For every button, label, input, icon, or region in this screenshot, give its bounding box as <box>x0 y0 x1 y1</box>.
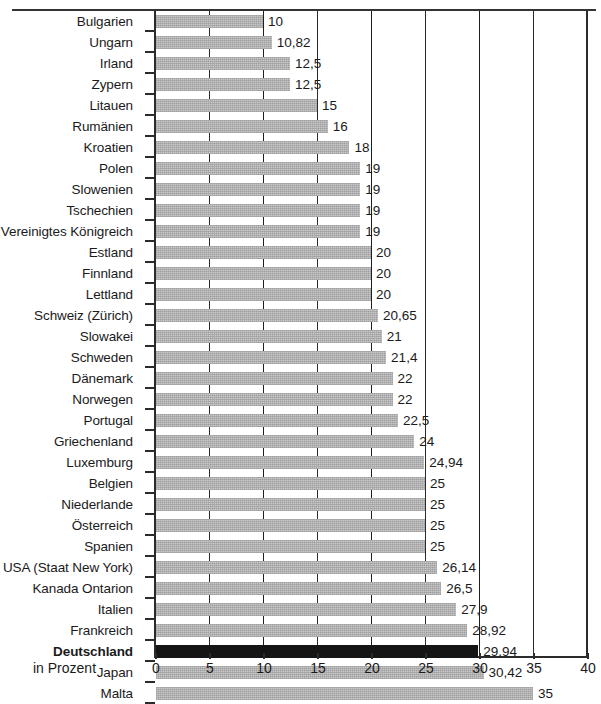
category-label: Estland <box>89 242 133 263</box>
bar <box>156 687 533 700</box>
category-label: Italien <box>98 599 133 620</box>
category-label: Rumänien <box>72 116 133 137</box>
bar <box>156 225 360 238</box>
bar-row: Kanada Ontarion26,5 <box>0 578 601 599</box>
bar-row: Rumänien16 <box>0 116 601 137</box>
x-axis-tick-mark <box>479 653 481 659</box>
bar-value-label: 15 <box>322 95 337 116</box>
bar-row: Frankreich28,92 <box>0 620 601 641</box>
bar-value-label: 20 <box>376 284 391 305</box>
bar-value-label: 10 <box>268 11 283 32</box>
bar <box>156 414 398 427</box>
bar <box>156 456 424 469</box>
bar <box>156 141 349 154</box>
bar-row: Litauen15 <box>0 95 601 116</box>
category-label: Schweden <box>71 347 133 368</box>
bar-row: Kroatien18 <box>0 137 601 158</box>
category-label: Frankreich <box>70 620 133 641</box>
bar <box>156 36 272 49</box>
bar <box>156 162 360 175</box>
bar-row: Slowakei21 <box>0 326 601 347</box>
bar <box>156 57 290 70</box>
bar-value-label: 12,5 <box>295 74 321 95</box>
bar-value-label: 26,14 <box>442 557 476 578</box>
bar <box>156 603 456 616</box>
bar-value-label: 20 <box>376 263 391 284</box>
category-label: Vereinigtes Königreich <box>1 221 133 242</box>
bar-row: Ungarn10,82 <box>0 32 601 53</box>
x-axis-tick-label: 20 <box>364 660 380 676</box>
bar-row: Bulgarien10 <box>0 11 601 32</box>
bar-row: Vereinigtes Königreich19 <box>0 221 601 242</box>
bar <box>156 561 437 574</box>
category-label: Griechenland <box>54 431 133 452</box>
x-axis-tick-mark <box>425 653 427 659</box>
bar-value-label: 19 <box>365 221 380 242</box>
x-axis-tick-label: 0 <box>152 660 160 676</box>
bar-row: Portugal22,5 <box>0 410 601 431</box>
category-label: Dänemark <box>72 368 133 389</box>
bar-value-label: 25 <box>430 494 445 515</box>
bar-rows: Bulgarien10Ungarn10,82Irland12,5Zypern12… <box>0 11 601 704</box>
bar <box>156 519 425 532</box>
bar-value-label: 10,82 <box>277 32 311 53</box>
bar-row: Polen19 <box>0 158 601 179</box>
category-label: Österreich <box>72 515 133 536</box>
bar <box>156 435 414 448</box>
x-axis-tick-mark <box>533 653 535 659</box>
category-label: Belgien <box>89 473 133 494</box>
category-label: USA (Staat New York) <box>3 557 133 578</box>
bar-row: Lettland20 <box>0 284 601 305</box>
bar-value-label: 35 <box>538 683 553 704</box>
bar <box>156 372 393 385</box>
bar <box>156 393 393 406</box>
category-label: Malta <box>100 683 133 704</box>
category-label: Niederlande <box>61 494 133 515</box>
bar <box>156 246 371 259</box>
x-axis-tick-mark <box>587 653 589 659</box>
bar-value-label: 22 <box>398 368 413 389</box>
bar <box>156 204 360 217</box>
x-axis-tick-label: 35 <box>526 660 542 676</box>
category-label: Schweiz (Zürich) <box>34 305 133 326</box>
bar-value-label: 24,94 <box>429 452 463 473</box>
bar <box>156 120 328 133</box>
x-axis-unit-label: in Prozent <box>33 660 96 676</box>
bar <box>156 183 360 196</box>
x-axis-tick-mark <box>263 653 265 659</box>
bar-row: Belgien25 <box>0 473 601 494</box>
x-axis-tick-label: 30 <box>472 660 488 676</box>
x-axis-tick-mark <box>155 653 157 659</box>
bar-value-label: 24 <box>419 431 434 452</box>
bar-row: Luxemburg24,94 <box>0 452 601 473</box>
bar-row: Estland20 <box>0 242 601 263</box>
bar-row: Irland12,5 <box>0 53 601 74</box>
bar-row: Schweiz (Zürich)20,65 <box>0 305 601 326</box>
category-label: Portugal <box>84 410 133 431</box>
category-label: Zypern <box>92 74 133 95</box>
bar-value-label: 25 <box>430 536 445 557</box>
bar-row: Österreich25 <box>0 515 601 536</box>
category-label: Luxemburg <box>66 452 133 473</box>
bar-row: Finnland20 <box>0 263 601 284</box>
bar-value-label: 16 <box>333 116 348 137</box>
bar-value-label: 18 <box>354 137 369 158</box>
bar-value-label: 25 <box>430 515 445 536</box>
x-axis-tick-label: 25 <box>418 660 434 676</box>
bar-row: Niederlande25 <box>0 494 601 515</box>
bar <box>156 15 263 28</box>
category-label: Spanien <box>84 536 133 557</box>
bar-value-label: 26,5 <box>446 578 472 599</box>
bar <box>156 540 425 553</box>
bar-value-label: 21 <box>387 326 402 347</box>
bar-row: Italien27,9 <box>0 599 601 620</box>
x-axis-tick-mark <box>371 653 373 659</box>
bar <box>156 330 382 343</box>
bar-row: Slowenien19 <box>0 179 601 200</box>
bar-row: Malta35 <box>0 683 601 704</box>
bar-row: Norwegen22 <box>0 389 601 410</box>
bar-value-label: 19 <box>365 179 380 200</box>
bar <box>156 267 371 280</box>
bar-value-label: 28,92 <box>472 620 506 641</box>
